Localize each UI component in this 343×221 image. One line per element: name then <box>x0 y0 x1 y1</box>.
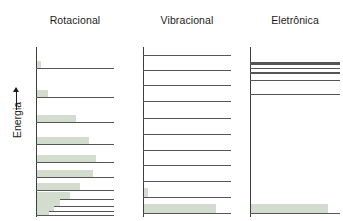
energy-level-line <box>143 118 231 119</box>
energy-level-line <box>250 94 340 95</box>
energy-level-line <box>250 68 340 69</box>
energy-level-diagram: Rotacional Vibracional Eletrônica Energi… <box>0 0 343 221</box>
population-bar <box>37 192 70 199</box>
panel-title-rotational: Rotacional <box>36 14 114 26</box>
panel-rotational <box>36 47 118 217</box>
energy-level-line <box>143 101 231 102</box>
energy-level-line <box>36 190 114 191</box>
panel-title-vibrational: Vibracional <box>143 14 231 26</box>
energy-level-line <box>250 62 340 65</box>
energy-level-line <box>143 134 231 135</box>
energy-level-line <box>36 122 114 123</box>
population-bar <box>37 90 48 97</box>
energy-level-line <box>36 215 114 216</box>
population-bar <box>37 155 96 162</box>
energy-level-line <box>143 55 231 56</box>
population-bar <box>37 61 41 68</box>
energy-level-line <box>143 70 231 71</box>
panel-title-electronic: Eletrônica <box>250 14 340 26</box>
y-axis-label-group: Energia <box>8 88 26 178</box>
energy-level-line <box>250 213 340 214</box>
population-bar <box>37 183 80 190</box>
energy-level-line <box>36 162 114 163</box>
energy-level-line <box>143 85 231 86</box>
population-bar <box>144 204 216 213</box>
energy-level-line <box>36 68 114 69</box>
energy-level-line <box>143 197 231 198</box>
energy-level-line <box>143 165 231 166</box>
panel-vibrational <box>143 47 235 217</box>
energy-level-line <box>250 72 340 74</box>
energy-level-line <box>36 97 114 98</box>
population-bar <box>37 137 89 144</box>
population-bar <box>37 208 49 215</box>
energy-level-line <box>143 150 231 151</box>
population-bar <box>37 115 76 122</box>
population-bar <box>144 188 148 197</box>
energy-level-line <box>36 177 114 178</box>
energy-level-line <box>36 144 114 145</box>
population-bar <box>37 170 93 177</box>
energy-level-line <box>143 181 231 182</box>
energy-level-line <box>250 80 340 81</box>
y-axis-label: Energia <box>11 85 23 155</box>
energy-level-line <box>143 213 231 214</box>
panel-electronic <box>250 47 343 217</box>
population-bar <box>251 204 328 213</box>
